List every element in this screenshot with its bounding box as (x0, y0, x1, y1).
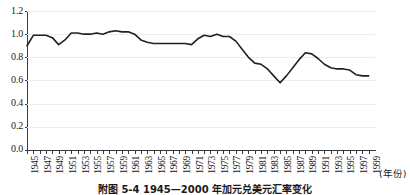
x-tick-label: 1955 (94, 156, 104, 174)
x-tick-mark (229, 151, 230, 154)
x-tick-mark (122, 151, 123, 154)
x-tick-mark (242, 151, 243, 154)
x-tick-mark (356, 151, 357, 154)
x-tick-label: 1967 (170, 156, 180, 174)
x-tick-label: 1959 (120, 156, 130, 174)
x-tick-mark (217, 151, 218, 154)
x-tick-mark (337, 151, 338, 154)
x-tick-label: 1961 (132, 156, 142, 174)
x-tick-label: 1993 (335, 156, 345, 174)
x-axis-unit-label: (年份) (379, 169, 406, 179)
x-tick-mark (343, 151, 344, 154)
x-tick-mark (109, 151, 110, 154)
y-tick-label: 0.6 (1, 75, 23, 85)
y-tick-label: 0.2 (1, 121, 23, 131)
x-tick-label: 1969 (183, 156, 193, 174)
x-tick-mark (204, 151, 205, 154)
x-tick-mark (362, 151, 363, 154)
x-tick-mark (135, 151, 136, 154)
plot-area (27, 11, 375, 150)
y-tick-label: 0.0 (1, 144, 23, 154)
x-tick-label: 1965 (158, 156, 168, 174)
x-tick-mark (166, 151, 167, 154)
x-tick-mark (103, 151, 104, 154)
x-tick-mark (97, 151, 98, 154)
x-tick-label: 1975 (221, 156, 231, 174)
x-tick-mark (236, 151, 237, 154)
x-tick-label: 1983 (271, 156, 281, 174)
x-tick-mark (312, 151, 313, 154)
y-tick-label: 0.8 (1, 52, 23, 62)
x-tick-mark (185, 151, 186, 154)
x-tick-mark (293, 151, 294, 154)
x-tick-mark (59, 151, 60, 154)
y-tick-label: 1.2 (1, 6, 23, 16)
x-tick-mark (274, 151, 275, 154)
x-tick-mark (65, 151, 66, 154)
x-tick-mark (267, 151, 268, 154)
series-line-chart (27, 11, 375, 150)
x-tick-mark (160, 151, 161, 154)
x-tick-mark (141, 151, 142, 154)
x-tick-label: 1979 (246, 156, 256, 174)
x-tick-mark (305, 151, 306, 154)
x-tick-mark (286, 151, 287, 154)
x-tick-mark (350, 151, 351, 154)
x-tick-label: 1985 (284, 156, 294, 174)
figure-container: 1.2 1.0 0.8 0.6 0.4 0.2 0.0 194519471949… (0, 0, 410, 195)
x-tick-mark (369, 151, 370, 154)
x-tick-mark (84, 151, 85, 154)
x-tick-mark (198, 151, 199, 154)
x-tick-label: 1981 (259, 156, 269, 174)
x-tick-mark (128, 151, 129, 154)
x-tick-mark (71, 151, 72, 154)
x-tick-mark (147, 151, 148, 154)
x-tick-mark (255, 151, 256, 154)
x-tick-label: 1947 (44, 156, 54, 174)
y-tick-label: 0.4 (1, 98, 23, 108)
x-tick-mark (154, 151, 155, 154)
x-tick-mark (299, 151, 300, 154)
x-tick-label: 1973 (208, 156, 218, 174)
x-tick-label: 1987 (297, 156, 307, 174)
x-tick-mark (90, 151, 91, 154)
x-tick-mark (52, 151, 53, 154)
y-tick-label: 1.0 (1, 29, 23, 39)
figure-caption: 附图 5-4 1945—2000 年加元兑美元汇率变化 (0, 184, 410, 195)
x-tick-mark (324, 151, 325, 154)
x-tick-mark (192, 151, 193, 154)
x-tick-label: 1963 (145, 156, 155, 174)
x-tick-label: 1997 (360, 156, 370, 174)
x-tick-label: 1989 (309, 156, 319, 174)
x-tick-mark (78, 151, 79, 154)
x-tick-mark (210, 151, 211, 154)
x-tick-label: 1991 (322, 156, 332, 174)
x-tick-label: 1957 (107, 156, 117, 174)
x-tick-mark (223, 151, 224, 154)
series-polyline (27, 31, 369, 83)
x-tick-label: 1971 (196, 156, 206, 174)
x-tick-mark (116, 151, 117, 154)
x-tick-mark (40, 151, 41, 154)
x-tick-label: 1951 (69, 156, 79, 174)
x-tick-label: 1995 (347, 156, 357, 174)
x-tick-label: 1949 (56, 156, 66, 174)
x-tick-label: 1977 (233, 156, 243, 174)
x-tick-label: 1945 (31, 156, 41, 174)
x-tick-label: 1953 (82, 156, 92, 174)
x-tick-mark (179, 151, 180, 154)
x-tick-mark (261, 151, 262, 154)
x-tick-mark (318, 151, 319, 154)
x-tick-mark (27, 151, 28, 154)
x-tick-mark (331, 151, 332, 154)
x-tick-mark (280, 151, 281, 154)
x-tick-mark (173, 151, 174, 154)
x-tick-mark (248, 151, 249, 154)
x-tick-mark (33, 151, 34, 154)
x-tick-mark (46, 151, 47, 154)
